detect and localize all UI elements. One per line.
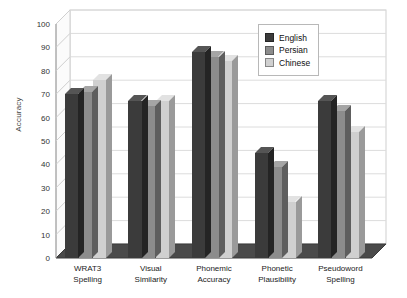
y-tick-30: 30: [0, 183, 50, 192]
y-tick-90: 90: [0, 43, 50, 52]
bar-side: [92, 86, 98, 258]
bar-side: [205, 46, 211, 258]
bar-side: [142, 95, 148, 258]
legend-label-persian: Persian: [279, 45, 308, 55]
x-label-4: PseudowordSpelling: [303, 264, 378, 285]
bar-english[interactable]: [318, 101, 331, 258]
bar-face: [65, 94, 78, 258]
bar-side: [232, 55, 238, 258]
bar-side: [169, 95, 175, 258]
bar-group: [65, 24, 106, 258]
legend-item[interactable]: Chinese: [265, 58, 310, 68]
legend: English Persian Chinese: [258, 24, 319, 76]
bar-face: [192, 52, 205, 258]
bar-side: [331, 95, 337, 258]
bar-face: [128, 101, 141, 258]
bar-side: [345, 105, 351, 258]
y-tick-70: 70: [0, 90, 50, 99]
bar-face: [255, 153, 268, 258]
bar-face: [318, 101, 331, 258]
legend-swatch-persian: [265, 46, 274, 55]
legend-item[interactable]: Persian: [265, 45, 310, 55]
bar-english[interactable]: [65, 94, 78, 258]
bar-side: [219, 51, 225, 258]
bar-group: [192, 24, 233, 258]
legend-label-english: English: [279, 33, 307, 43]
y-tick-80: 80: [0, 66, 50, 75]
bar-english[interactable]: [128, 101, 141, 258]
bar-side: [359, 126, 365, 258]
bar-side: [268, 147, 274, 258]
bar-group: [318, 24, 359, 258]
bar-side: [106, 74, 112, 258]
bar-group: [128, 24, 169, 258]
bar-english[interactable]: [192, 52, 205, 258]
bar-side: [155, 100, 161, 258]
legend-label-chinese: Chinese: [279, 58, 310, 68]
bar-side: [282, 161, 288, 258]
y-tick-50: 50: [0, 137, 50, 146]
y-tick-60: 60: [0, 113, 50, 122]
y-tick-0: 0: [0, 254, 50, 263]
y-tick-100: 100: [0, 20, 50, 29]
x-axis-labels: WRAT3SpellingVisualSimilarityPhonemicAcc…: [56, 264, 386, 298]
bar-side: [296, 196, 302, 258]
bar-side: [78, 88, 84, 258]
y-tick-10: 10: [0, 230, 50, 239]
bar-chart: Accuracy 0102030405060708090100 WRAT3Spe…: [0, 0, 407, 298]
y-tick-20: 20: [0, 207, 50, 216]
bar-english[interactable]: [255, 153, 268, 258]
x-label-line: Pseudoword: [303, 264, 378, 275]
y-tick-40: 40: [0, 160, 50, 169]
legend-swatch-chinese: [265, 58, 274, 67]
bar-groups: [56, 24, 372, 258]
legend-item[interactable]: English: [265, 33, 310, 43]
x-label-line: Spelling: [303, 275, 378, 286]
legend-swatch-english: [265, 33, 274, 42]
